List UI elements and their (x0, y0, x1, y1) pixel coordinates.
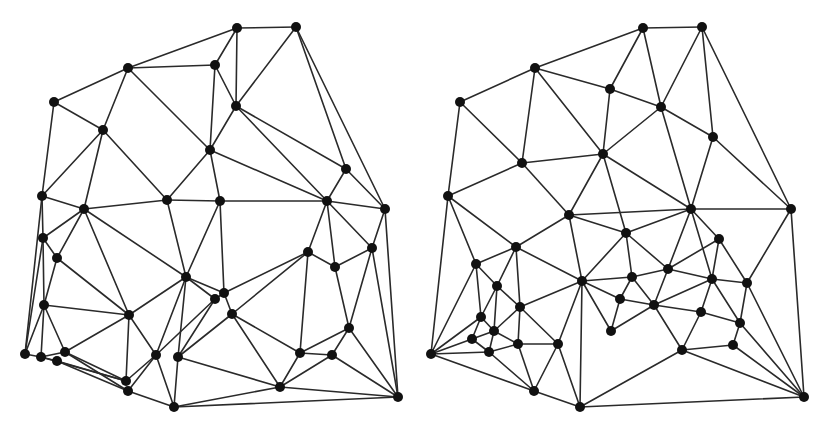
graph-node (638, 23, 648, 33)
graph-node (121, 376, 131, 386)
graph-edge (236, 28, 237, 106)
graph-edge (25, 238, 43, 354)
graph-node (621, 228, 631, 238)
graph-edge (610, 28, 643, 89)
graph-edge (702, 27, 791, 209)
graph-edge (522, 68, 535, 163)
graph-edge (747, 209, 791, 283)
graph-edge (43, 238, 44, 305)
graph-edge (42, 130, 103, 196)
graph-edge (57, 209, 84, 258)
graph-node (52, 253, 62, 263)
graph-edge (431, 352, 489, 354)
graph-node (553, 339, 563, 349)
graph-edge (186, 201, 220, 277)
graph-edge (335, 267, 349, 328)
graph-edge (44, 305, 65, 352)
graph-node (598, 149, 608, 159)
graph-node (489, 326, 499, 336)
graph-node (707, 274, 717, 284)
graph-edge (84, 130, 103, 209)
graph-edge (626, 233, 668, 269)
graph-node (649, 300, 659, 310)
graph-edge (346, 169, 385, 209)
graph-node (98, 125, 108, 135)
graph-node (714, 234, 724, 244)
graph-node (49, 97, 59, 107)
graph-edge (516, 247, 582, 281)
left-graph-edges (25, 27, 398, 407)
graph-node (151, 350, 161, 360)
graph-edge (84, 200, 167, 209)
triangulation-diagram (0, 0, 831, 430)
graph-edge (42, 196, 84, 209)
graph-edge (372, 209, 385, 248)
graph-node (728, 340, 738, 350)
graph-node (530, 63, 540, 73)
graph-node (443, 191, 453, 201)
graph-edge (476, 264, 481, 317)
graph-edge (128, 355, 156, 391)
graph-edge (643, 27, 702, 28)
graph-edge (791, 209, 804, 397)
graph-node (227, 309, 237, 319)
graph-edge (431, 354, 534, 391)
graph-edge (44, 305, 129, 315)
graph-edge (610, 89, 661, 107)
graph-node (696, 307, 706, 317)
graph-edge (372, 248, 398, 397)
graph-node (735, 318, 745, 328)
graph-node (367, 243, 377, 253)
graph-edge (494, 307, 520, 331)
graph-node (577, 276, 587, 286)
graph-node (20, 349, 30, 359)
graph-node (205, 145, 215, 155)
graph-node (124, 310, 134, 320)
graph-edge (580, 350, 682, 407)
graph-edge (569, 154, 603, 215)
graph-edge (740, 283, 747, 323)
graph-edge (43, 209, 84, 238)
graph-edge (54, 102, 103, 130)
graph-edge (42, 102, 54, 196)
graph-node (799, 392, 809, 402)
graph-node (476, 312, 486, 322)
graph-edge (210, 106, 236, 150)
graph-edge (476, 247, 516, 264)
graph-edge (65, 352, 128, 391)
graph-edge (620, 299, 654, 305)
graph-edge (215, 28, 237, 65)
graph-edge (682, 312, 701, 350)
graph-edge (129, 277, 186, 315)
graph-edge (232, 314, 300, 353)
left-graph-nodes (20, 22, 403, 412)
graph-edge (643, 28, 661, 107)
graph-node (663, 264, 673, 274)
graph-edge (308, 201, 327, 252)
graph-edge (535, 68, 603, 154)
graph-edge (296, 27, 346, 169)
graph-node (455, 97, 465, 107)
graph-edge (128, 28, 237, 68)
graph-node (162, 195, 172, 205)
graph-edge (494, 286, 497, 331)
graph-edge (174, 397, 398, 407)
graph-node (39, 300, 49, 310)
right-graph (426, 22, 809, 412)
graph-edge (280, 353, 300, 387)
graph-edge (522, 163, 569, 215)
graph-edge (516, 247, 520, 307)
graph-edge (57, 258, 129, 315)
graph-edge (65, 315, 129, 352)
graph-edge (558, 281, 582, 344)
graph-node (330, 262, 340, 272)
right-graph-nodes (426, 22, 809, 412)
graph-node (627, 272, 637, 282)
graph-edge (349, 328, 398, 397)
graph-edge (712, 279, 747, 283)
graph-edge (280, 355, 332, 387)
graph-edge (327, 169, 346, 201)
graph-edge (385, 209, 398, 397)
graph-edge (236, 106, 327, 201)
graph-edge (236, 106, 346, 169)
